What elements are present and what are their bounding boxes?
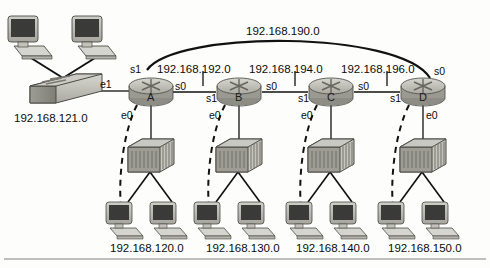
link-hub-c-ws2 — [330, 172, 352, 202]
label-network-lan-c: 192.168.140.0 — [296, 243, 370, 255]
link-hub-a-ws2 — [150, 172, 172, 202]
label-router-a: A — [147, 92, 154, 103]
label-iface-c-s0: s0 — [358, 81, 369, 92]
label-network-lan-b: 192.168.130.0 — [206, 243, 280, 255]
label-iface-b-s1: s1 — [206, 93, 217, 104]
link-hub-d-ws2 — [422, 172, 444, 202]
diagram-canvas — [0, 0, 490, 268]
workstation-lan120-2 — [150, 202, 187, 239]
label-iface-a-e1: e1 — [100, 79, 112, 90]
workstation-lan150-1 — [378, 202, 415, 239]
label-router-d: D — [419, 92, 427, 103]
network-diagram: 192.168.190.0 192.168.121.0 192.168.192.… — [0, 0, 490, 268]
label-iface-a-s0: s0 — [175, 81, 186, 92]
link-hub-c-ws1 — [308, 172, 330, 202]
label-network-wan-backup: 192.168.190.0 — [246, 26, 320, 38]
label-network-serial-cd: 192.168.196.0 — [341, 64, 415, 76]
workstation-lan140-2 — [330, 202, 367, 239]
label-router-c: C — [327, 92, 335, 103]
workstation-lan121-1 — [8, 16, 52, 59]
label-router-b: B — [235, 92, 242, 103]
label-iface-a-s1: s1 — [130, 64, 141, 75]
hub-c-icon — [308, 139, 354, 172]
label-network-lan-a: 192.168.120.0 — [110, 243, 184, 255]
link-hub-b-ws1 — [216, 172, 238, 202]
label-iface-b-e0: e0 — [209, 110, 221, 121]
link-ws1-to-switch — [31, 58, 63, 78]
workstation-lan150-2 — [422, 202, 459, 239]
hub-d-icon — [400, 139, 446, 172]
hub-b-icon — [216, 139, 262, 172]
link-hub-a-ws1 — [128, 172, 150, 202]
link-hub-b-ws2 — [238, 172, 260, 202]
label-iface-a-e0: e0 — [121, 110, 133, 121]
label-network-serial-bc: 192.168.194.0 — [249, 64, 323, 76]
label-iface-d-e0: e0 — [426, 110, 438, 121]
workstation-lan121-2 — [72, 16, 116, 59]
workstation-lan120-1 — [106, 202, 143, 239]
label-iface-d-s0: s0 — [434, 66, 445, 77]
label-iface-c-e0: e0 — [301, 110, 313, 121]
hub-a-icon — [128, 139, 174, 172]
label-network-lan-switch: 192.168.121.0 — [14, 113, 88, 125]
label-network-lan-d: 192.168.150.0 — [388, 243, 462, 255]
workstation-lan130-1 — [194, 202, 231, 239]
label-iface-b-s0: s0 — [266, 81, 277, 92]
link-hub-d-ws1 — [400, 172, 422, 202]
label-network-serial-ab: 192.168.192.0 — [157, 64, 231, 76]
switch-icon — [30, 74, 102, 103]
label-iface-d-s1: s1 — [390, 93, 401, 104]
workstation-lan140-1 — [286, 202, 323, 239]
label-iface-c-s1: s1 — [298, 93, 309, 104]
workstation-lan130-2 — [238, 202, 275, 239]
